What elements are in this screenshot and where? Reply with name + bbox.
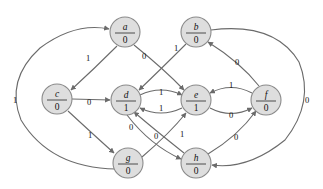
graph-diagram: a 0 b 0 c 0 d 1 bbox=[0, 0, 323, 189]
node-f-value: 0 bbox=[264, 103, 269, 113]
edge-label-a-c: 1 bbox=[86, 53, 90, 63]
edge-label-d-e: 1 bbox=[159, 87, 163, 97]
edge-a-to-c bbox=[71, 46, 117, 90]
node-b[interactable]: b 0 bbox=[181, 17, 211, 47]
node-h[interactable]: h 0 bbox=[181, 148, 211, 178]
node-a-letter: a bbox=[123, 22, 128, 32]
edge-label-c-g: 1 bbox=[88, 130, 92, 140]
node-g[interactable]: g 0 bbox=[113, 148, 143, 178]
node-a[interactable]: a 0 bbox=[110, 17, 140, 47]
node-d-value: 1 bbox=[124, 103, 129, 113]
edge-label-d-h: 0 bbox=[129, 122, 133, 132]
edge-label-h-f: 0 bbox=[234, 132, 238, 142]
node-g-letter: g bbox=[126, 153, 131, 163]
node-h-letter: h bbox=[194, 153, 199, 163]
edge-label-g-e: 1 bbox=[180, 129, 184, 139]
edge-label-f-b: 0 bbox=[235, 57, 239, 67]
node-d[interactable]: d 1 bbox=[111, 85, 141, 115]
nodes-layer: a 0 b 0 c 0 d 1 bbox=[42, 17, 281, 178]
node-b-value: 0 bbox=[194, 35, 199, 45]
graph-canvas: a 0 b 0 c 0 d 1 bbox=[0, 0, 323, 189]
node-h-value: 0 bbox=[194, 166, 199, 176]
edge-label-e-d: 1 bbox=[159, 103, 163, 113]
edge-label-h-d: 0 bbox=[154, 131, 158, 141]
node-e-letter: e bbox=[194, 90, 198, 100]
node-g-value: 0 bbox=[126, 166, 131, 176]
edge-label-b-h: 0 bbox=[305, 95, 309, 105]
edge-label-f-e: 1 bbox=[229, 80, 233, 90]
edge-label-a-e: 0 bbox=[142, 51, 146, 61]
edge-label-g-a: 1 bbox=[13, 95, 17, 105]
node-d-letter: d bbox=[124, 90, 129, 100]
edge-f-to-b bbox=[208, 42, 259, 86]
node-e[interactable]: e 1 bbox=[181, 85, 211, 115]
node-c-value: 0 bbox=[55, 102, 60, 112]
edge-label-b-d: 1 bbox=[174, 43, 178, 53]
edge-label-c-d: 0 bbox=[87, 97, 91, 107]
node-e-value: 1 bbox=[194, 103, 199, 113]
node-c[interactable]: c 0 bbox=[42, 84, 72, 114]
node-f[interactable]: f 0 bbox=[251, 85, 281, 115]
edge-label-e-f: 0 bbox=[229, 110, 233, 120]
node-b-letter: b bbox=[194, 22, 199, 32]
node-a-value: 0 bbox=[123, 35, 128, 45]
